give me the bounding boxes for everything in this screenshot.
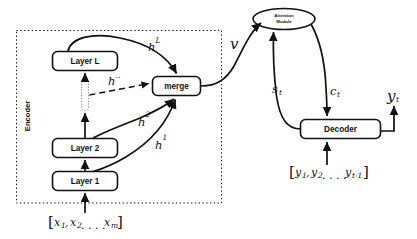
svg-text:h: h (138, 115, 145, 129)
svg-text:h: h (155, 138, 162, 152)
layer-l-label: Layer L (70, 57, 99, 66)
svg-text:x: x (104, 216, 111, 229)
label-y-t: y t (386, 87, 400, 105)
encoder-boundary (17, 31, 222, 204)
svg-text:,: , (306, 166, 310, 179)
svg-text:h: h (108, 74, 115, 88)
svg-text:h: h (148, 40, 155, 54)
svg-text:..: .. (116, 71, 121, 80)
svg-text:,: , (65, 216, 69, 229)
encoder-input-sequence: [ x 1 , x 2 . . . . x m ] (48, 213, 123, 232)
edge-v-merge-to-attention (201, 23, 261, 86)
svg-text:. . . .: . . . . (81, 219, 105, 232)
edge-hdots-to-merge (90, 84, 150, 96)
svg-text:x: x (54, 216, 61, 229)
edge-ct-attention-to-decoder (311, 24, 327, 116)
svg-text:[: [ (48, 213, 54, 231)
decoder-label: Decoder (324, 125, 358, 134)
label-s-t: s t (272, 82, 283, 97)
label-h-dots: h .. (108, 71, 120, 88)
attention-module-label-line1: Attention (274, 13, 294, 18)
svg-text:y: y (344, 166, 352, 179)
label-h-L: h L (148, 36, 161, 54)
label-h-1: h 1 (155, 133, 167, 152)
diagram-canvas: Encoder Layer L Layer 2 Layer 1 merge At… (0, 0, 417, 239)
svg-text:t-1: t-1 (352, 171, 362, 180)
svg-text:1: 1 (163, 133, 168, 142)
edge-decoder-to-output (381, 106, 395, 131)
svg-text:y: y (310, 166, 318, 179)
svg-text:c: c (330, 84, 337, 98)
svg-text:s: s (272, 82, 278, 96)
svg-text:]: ] (117, 213, 123, 231)
encoder-group-label: Encoder (23, 101, 32, 131)
edge-st-decoder-to-attention (273, 32, 300, 129)
svg-text:]: ] (363, 163, 369, 181)
svg-text:y: y (386, 87, 396, 105)
label-v: v (230, 35, 239, 53)
hidden-layers-ellipsis-box (82, 81, 89, 111)
svg-text:[: [ (289, 163, 295, 181)
svg-text:t: t (279, 88, 283, 97)
svg-text:2: 2 (145, 110, 151, 119)
svg-text:x: x (70, 216, 77, 229)
svg-text:t: t (396, 95, 400, 104)
svg-text:. . . .: . . . . (322, 169, 346, 182)
decoder-input-sequence: [ y 1 , y 2 . . . . y t-1 ] (289, 163, 369, 182)
svg-text:v: v (230, 35, 239, 53)
attention-module-label-line2: Module (276, 19, 292, 24)
label-h-2: h 2 (138, 110, 151, 129)
layer-1-label: Layer 1 (71, 177, 100, 186)
svg-text:t: t (337, 90, 341, 99)
svg-text:L: L (155, 36, 161, 45)
diagram-svg: Encoder Layer L Layer 2 Layer 1 merge At… (0, 0, 417, 239)
merge-label: merge (164, 82, 189, 91)
label-c-t: c t (330, 84, 341, 99)
layer-2-label: Layer 2 (71, 144, 100, 153)
svg-text:y: y (294, 166, 302, 179)
